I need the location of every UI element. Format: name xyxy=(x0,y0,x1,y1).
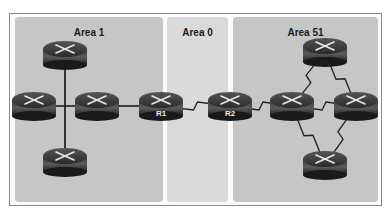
router-a51-top xyxy=(303,38,347,67)
router-a1-mid xyxy=(75,92,119,121)
router-a51-right xyxy=(334,92,378,121)
router-a1-bottom xyxy=(43,148,87,177)
router-a51-bottom xyxy=(303,151,347,180)
router-r2: R2 xyxy=(208,92,252,121)
network-topology: R1R2 xyxy=(0,0,390,222)
router-a1-top xyxy=(43,41,87,70)
router-a1-left xyxy=(12,92,56,121)
router-label-r1: R1 xyxy=(156,109,167,118)
router-label-r2: R2 xyxy=(225,109,236,118)
router-r1: R1 xyxy=(139,92,183,121)
router-a51-left xyxy=(270,92,314,121)
